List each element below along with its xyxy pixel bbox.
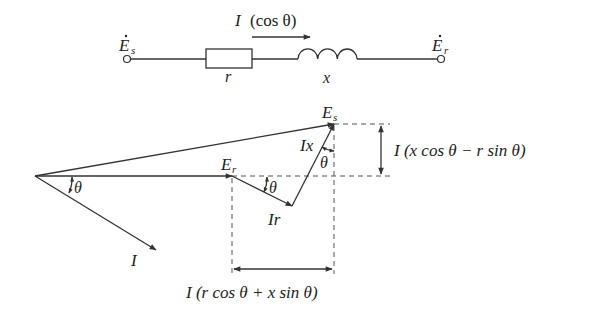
theta-label-er: θ <box>269 179 277 196</box>
source-terminal <box>124 56 131 63</box>
es-phasor <box>35 124 334 176</box>
svg-text:r: r <box>232 163 237 175</box>
theta-arc-ix <box>322 147 334 151</box>
phasor-diagram: θ θ θ E s E r I Ir Ix I (x cos θ − r sin… <box>35 103 526 302</box>
receiver-voltage-label: E r <box>431 35 449 56</box>
current-label: I <box>234 11 242 30</box>
resistor <box>206 49 252 68</box>
theta-arc-origin <box>69 177 72 193</box>
svg-text:E: E <box>118 36 130 55</box>
svg-text:s: s <box>131 44 135 56</box>
current-phasor <box>35 176 156 250</box>
ir-phasor <box>232 176 292 206</box>
ir-label: Ir <box>267 210 281 229</box>
theta-label-ix: θ <box>320 154 328 171</box>
svg-text:E: E <box>431 36 443 55</box>
current-note: (cos θ) <box>250 11 296 30</box>
svg-text:E: E <box>321 103 333 122</box>
er-label: E r <box>220 155 237 175</box>
inductor <box>298 49 357 59</box>
svg-text:r: r <box>444 44 449 56</box>
svg-text:E: E <box>220 155 232 174</box>
horizontal-dimension-label: I (r cos θ + x sin θ) <box>185 283 318 302</box>
inductor-label: x <box>322 69 330 86</box>
svg-text:s: s <box>333 111 337 123</box>
resistor-label: r <box>225 68 232 85</box>
source-voltage-label: E s <box>118 35 135 56</box>
circuit-diagram: E s E r r x I (cos θ) <box>118 11 449 86</box>
phasor-diagram-figure: E s E r r x I (cos θ) <box>0 0 593 321</box>
vertical-dimension-label: I (x cos θ − r sin θ) <box>393 141 526 160</box>
es-label: E s <box>321 103 337 123</box>
theta-arc-er <box>264 177 267 192</box>
ix-label: Ix <box>299 136 314 155</box>
receiver-terminal <box>438 56 445 63</box>
theta-label-origin: θ <box>74 179 82 196</box>
current-phasor-label: I <box>130 251 138 270</box>
